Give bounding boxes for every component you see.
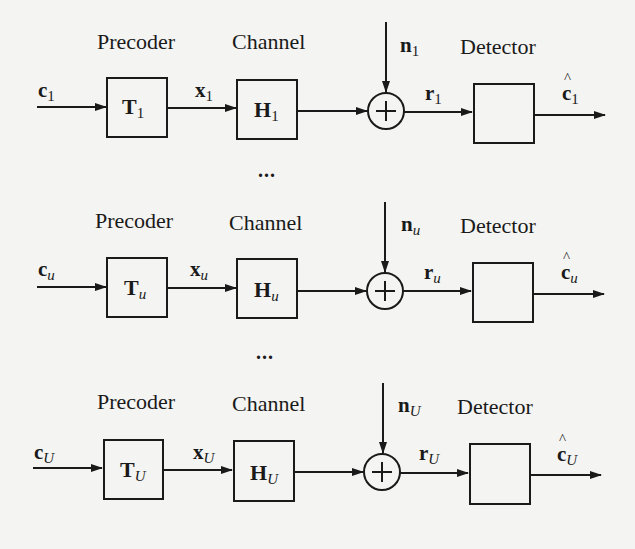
channel-label-HU: HU	[250, 462, 278, 487]
input-signal-c1: c1	[38, 80, 55, 104]
precoder-label-Tu: Tu	[124, 277, 146, 302]
detector-title-u: Detector	[460, 215, 536, 237]
precoder-title-1: Precoder	[97, 31, 175, 53]
input-signal-cu: cu	[38, 259, 55, 283]
received-signal-r1: r1	[425, 83, 442, 107]
precoded-signal-xu: xu	[190, 259, 208, 283]
received-signal-rU: rU	[419, 443, 439, 467]
received-signal-ru: ru	[424, 262, 441, 286]
ellipsis-2: ...	[256, 342, 274, 362]
detector-box-U	[470, 444, 530, 504]
channel-label-H1: H1	[254, 99, 279, 124]
output-estimate-cU-hat: cU	[557, 444, 577, 468]
precoder-label-T1: T1	[122, 96, 144, 121]
precoded-signal-x1: x1	[195, 80, 213, 104]
noise-label-nu: nu	[401, 214, 420, 238]
channel-title-u: Channel	[229, 212, 302, 234]
detector-title-1: Detector	[460, 36, 536, 58]
ellipsis-1: ...	[258, 160, 276, 180]
detector-box-1	[474, 84, 534, 143]
channel-label-Hu: Hu	[254, 279, 279, 304]
input-signal-cU: cU	[34, 442, 54, 466]
noise-label-n1: n1	[400, 35, 419, 59]
precoder-label-TU: TU	[120, 459, 146, 484]
detector-title-U: Detector	[457, 396, 533, 418]
precoded-signal-xU: xU	[193, 442, 214, 466]
noise-label-nU: nU	[398, 395, 421, 419]
diagram-canvas	[0, 0, 635, 549]
channel-title-U: Channel	[232, 393, 305, 415]
channel-title-1: Channel	[232, 31, 305, 53]
output-estimate-c1-hat: c1	[562, 83, 579, 107]
output-estimate-cu-hat: cu	[561, 262, 578, 286]
precoder-title-U: Precoder	[97, 391, 175, 413]
detector-box-u	[473, 263, 533, 322]
precoder-title-u: Precoder	[95, 210, 173, 232]
